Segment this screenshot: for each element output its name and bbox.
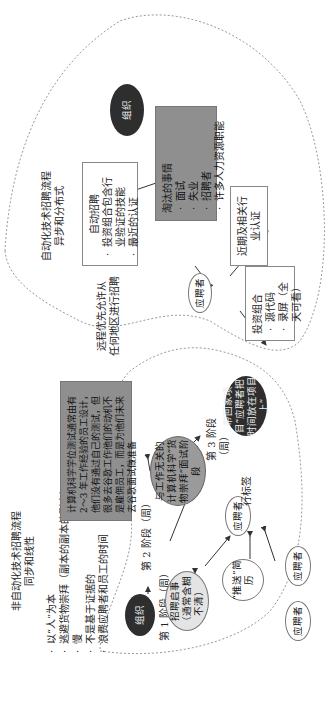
resume-push-node: “推送”简历 (222, 559, 264, 601)
cs-degree-note-box: 计算机科学学位测试通常由有 2～3 年工作经验的员工设计，他们没有通过自己的测试… (60, 381, 132, 521)
candidate-node-top: 应聘者 (188, 273, 212, 313)
candidate-node: 应聘者 (285, 601, 311, 641)
automated-process-title: 自动化技术招聘流程 异步和分布式 (40, 151, 66, 281)
candidate-node: 应聘者 (285, 546, 311, 586)
cs-exam-node: 与工作无关的计算机科学“货物崇拜”面试阶段 (150, 436, 206, 506)
portfolio-box: 投资组合 源代码 录屏（全天可看） (245, 266, 295, 341)
certification-box: 近期及相关行业认证 (230, 186, 268, 266)
buzzword-label: 行标签 (240, 456, 253, 506)
stage2-label: 第 2 阶段（周） (140, 501, 153, 571)
auto-recruit-box: 自动招聘 投资组合包含行业验证的技能 最近的认证 (82, 162, 138, 266)
auto-recruit-bullet: 最近的认证 (127, 169, 140, 247)
job-posting-node: 招聘启事（通常含糊不清） (165, 571, 209, 631)
diagram-canvas: 自动化技术招聘流程 异步和分布式 组织 自动招聘 投资组合包含行业验证的技能 最… (0, 0, 334, 721)
org-node-top: 组织 (110, 84, 144, 136)
remote-first-note: 远程优先允许从 任何地区进行招聘 (95, 266, 121, 366)
org-node-bottom: 组织 (125, 594, 155, 636)
takehome-project-node: 带回家项目“应聘者把时间放在项目上” (225, 376, 267, 436)
eliminated-box: 淘汰的事情 面试 失业 招聘者 许多人力资源职能 (155, 106, 217, 221)
auto-recruit-bullet: 投资组合包含行业验证的技能 (101, 169, 127, 247)
manual-process-title: 非自动化技术招聘流程 同步和线性 (10, 496, 36, 626)
